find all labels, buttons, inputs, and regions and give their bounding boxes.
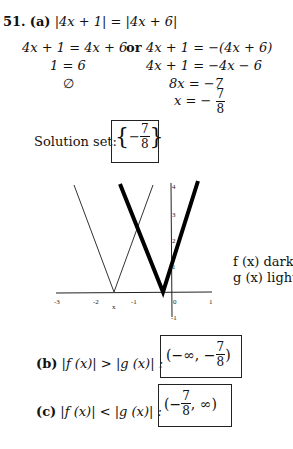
fraction: 7 8: [181, 390, 191, 417]
part-b-label: (b): [36, 356, 57, 371]
part-b-answer: (−∞, − 7 8 ): [166, 341, 231, 368]
fraction-numerator: 7: [216, 341, 226, 355]
part-b-inequality: |f (x)| > |g (x)| :: [62, 356, 164, 371]
x-tick-label: -2: [93, 298, 99, 306]
y-axis: [171, 183, 172, 317]
y-tick-label: 2: [172, 237, 176, 245]
fraction: 7 8: [216, 341, 226, 368]
fraction-numerator: 7: [181, 390, 191, 404]
y-tick-label: 3: [172, 211, 176, 219]
interval-left: (−∞, −: [166, 347, 216, 363]
part-c-condition: (c) |f (x)| < |g (x)| :: [36, 404, 162, 419]
absolute-value-graph: -3 -2 x -1 0 1 4 3 2 1 -1: [0, 0, 293, 449]
x-tick-label: -3: [54, 298, 60, 306]
x-tick-label: -1: [131, 298, 137, 306]
y-tick-label: -1: [171, 314, 177, 322]
fraction-denominator: 8: [217, 355, 225, 368]
legend-g: g (x) light: [233, 270, 293, 285]
interval-right: , ∞): [191, 396, 217, 412]
part-c-label: (c): [36, 404, 56, 419]
interval-right: ): [225, 347, 230, 363]
y-tick-label: 1: [172, 263, 176, 271]
part-c-inequality: |f (x)| < |g (x)| :: [60, 404, 162, 419]
part-b-condition: (b) |f (x)| > |g (x)| :: [36, 356, 163, 371]
y-tick-label: 4: [172, 183, 176, 191]
x-tick-label: 0: [173, 298, 177, 306]
f-dark-curve: [120, 181, 198, 292]
interval-left: (−: [164, 396, 181, 412]
x-axis-label: x: [112, 303, 116, 311]
x-tick-label: 1: [209, 298, 213, 306]
x-axis: [56, 292, 212, 293]
part-c-answer: (− 7 8 , ∞): [164, 390, 217, 417]
legend-f: f (x) dark: [233, 254, 293, 269]
fraction-denominator: 8: [182, 404, 190, 417]
